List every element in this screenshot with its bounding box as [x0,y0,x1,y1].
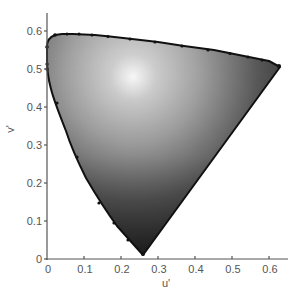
y-axis-label: v' [4,125,16,133]
y-tick-label: 0.4 [27,101,42,113]
y-tick-labels: 0 0.1 0.2 0.3 0.4 0.5 0.6 [27,25,42,265]
y-tick-label: 0 [36,253,42,265]
x-tick-label: 0.1 [77,263,92,275]
y-tick-label: 0.3 [27,139,42,151]
x-tick-label: 0.4 [188,263,203,275]
y-tick-label: 0.1 [27,215,42,227]
x-axis-label: u' [162,277,170,289]
y-tick-label: 0.6 [27,25,42,37]
x-tick-labels: 0 0.1 0.2 0.3 0.4 0.5 0.6 [45,263,278,275]
x-tick-label: 0.3 [151,263,166,275]
gamut-region [47,34,280,255]
x-tick-label: 0.6 [262,263,277,275]
y-tick-label: 0.2 [27,177,42,189]
x-tick-label: 0.2 [114,263,129,275]
y-tick-label: 0.5 [27,63,42,75]
x-tick-label: 0 [45,263,51,275]
chromaticity-chart: 0 0.1 0.2 0.3 0.4 0.5 0.6 0 0.1 0.2 0.3 … [0,0,300,301]
x-tick-label: 0.5 [225,263,240,275]
